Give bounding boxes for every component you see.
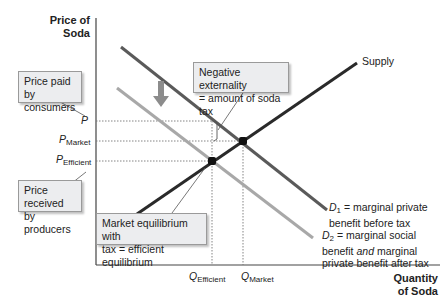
p-market-main: P xyxy=(59,133,66,145)
p-efficient-main: P xyxy=(56,153,63,165)
p-label: P xyxy=(81,114,88,126)
d1-label: D1 = marginal private benefit before tax xyxy=(329,201,428,230)
d2-text2b: and xyxy=(356,245,374,257)
q-efficient-main: Q xyxy=(189,270,197,282)
d1-main: D xyxy=(329,201,337,213)
d2-text2c: marginal xyxy=(374,245,417,257)
price-paid-by-consumers-callout: Price paid by consumers xyxy=(18,71,82,103)
y-axis-title: Price of Soda xyxy=(30,14,90,40)
d2-text2a: benefit xyxy=(322,245,356,257)
y-axis-title-line2: Soda xyxy=(30,27,90,40)
consumers-line2: by consumers xyxy=(24,88,76,114)
producers-line1: Price received xyxy=(24,184,76,210)
x-axis-title: Quantity of Soda xyxy=(370,272,438,298)
d2-text1: = marginal social xyxy=(334,229,416,241)
tax-bracket xyxy=(214,121,217,141)
d2-main: D xyxy=(322,229,330,241)
q-market-sub: Market xyxy=(249,275,273,284)
externality-line1: Negative externality xyxy=(199,66,283,92)
x-axis-title-line2: of Soda xyxy=(370,285,438,298)
price-received-by-producers-callout: Price received by producers xyxy=(18,180,82,212)
y-axis-title-line1: Price of xyxy=(30,14,90,27)
negative-externality-callout: Negative externality = amount of soda ta… xyxy=(193,62,289,93)
equilibrium-line2: tax = efficient equilibrium xyxy=(102,243,201,269)
market-equilibrium-point xyxy=(239,137,247,145)
d1-text1: = marginal private xyxy=(341,201,428,213)
p-efficient-sub: Efficient xyxy=(63,158,91,167)
q-efficient-sub: Efficient xyxy=(197,275,225,284)
d2-label: D2 = marginal social benefit and margina… xyxy=(322,229,429,269)
p-market-label: PMarket xyxy=(59,133,90,149)
consumers-line1: Price paid xyxy=(24,75,76,88)
market-equilibrium-callout: Market equilibrium with tax = efficient … xyxy=(96,213,207,245)
x-axis-title-line1: Quantity xyxy=(370,272,438,285)
q-efficient-label: QEfficient xyxy=(189,270,225,286)
q-market-main: Q xyxy=(241,270,249,282)
supply-label: Supply xyxy=(362,55,394,67)
externality-line2: = amount of soda tax xyxy=(199,92,283,118)
efficient-equilibrium-point xyxy=(208,157,216,165)
producers-line2: by producers xyxy=(24,210,76,236)
q-market-label: QMarket xyxy=(241,270,274,286)
p-market-sub: Market xyxy=(66,138,90,147)
d2-text3: private benefit after tax xyxy=(322,257,429,269)
equilibrium-line1: Market equilibrium with xyxy=(102,217,201,243)
p-efficient-label: PEfficient xyxy=(56,153,91,169)
